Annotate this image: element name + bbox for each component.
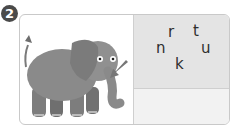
exercise-card: r t n u k [19,14,230,125]
letter-tile: n [156,41,166,56]
answer-box[interactable] [133,89,229,124]
letter-tile: r [168,25,174,40]
letter-tile: k [175,57,184,72]
letter-tile: u [201,41,211,56]
elephant-picture [20,15,133,124]
arrow-icon [108,59,130,81]
letter-tile: t [193,24,199,39]
letter-tiles-panel: r t n u k [133,15,229,89]
exercise-number-badge: 2 [1,5,18,22]
